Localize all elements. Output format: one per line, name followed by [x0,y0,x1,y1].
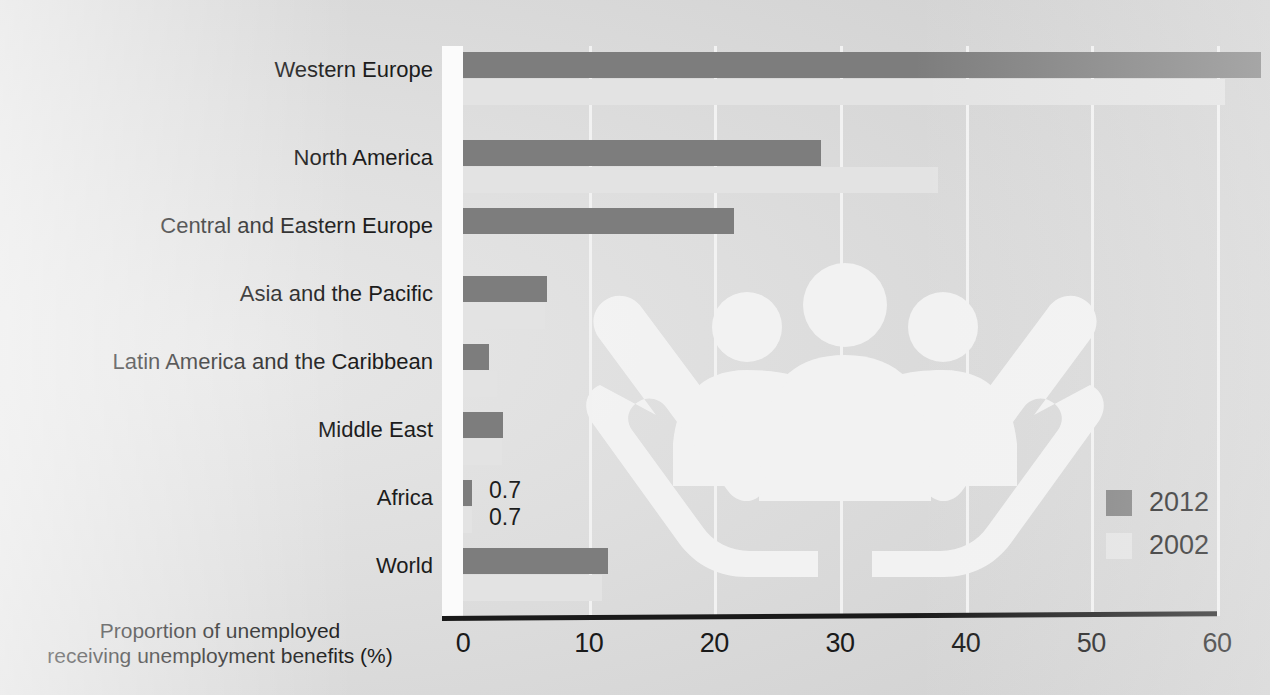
x-tick-60: 60 [1202,628,1231,659]
x-tick-50: 50 [1077,628,1106,659]
bar-group [463,412,1217,466]
x-axis-title: Proportion of unemployed receiving unemp… [0,618,440,668]
bar-2002 [463,79,1225,105]
bar-2012 [463,344,489,370]
axis-title-line2: receiving unemployment benefits (%) [0,643,440,668]
x-tick-10: 10 [574,628,603,659]
x-tick-40: 40 [951,628,980,659]
bar-2002 [463,167,938,193]
value-label-africa-2012: 0.7 [489,477,521,504]
bar-group [463,52,1217,106]
legend: 20122002 [1106,487,1209,573]
bar-2002 [463,371,497,397]
legend-swatch-icon [1106,490,1132,516]
legend-label: 2012 [1149,487,1209,518]
category-label-world: World [376,554,433,578]
bar-group [463,276,1217,330]
bar-group [463,548,1217,602]
bar-2012 [463,140,821,166]
category-label-africa: Africa [377,486,433,510]
bar-2012 [463,480,472,506]
bar-2002 [463,575,602,601]
bar-2002 [463,303,545,329]
plot-area [463,46,1217,616]
value-label-africa-2002: 0.7 [489,504,521,531]
legend-label: 2002 [1149,530,1209,561]
category-label-asia-and-the-pacific: Asia and the Pacific [240,282,433,306]
bar-group [463,344,1217,398]
legend-item-2012[interactable]: 2012 [1106,487,1209,518]
category-label-north-america: North America [294,146,433,170]
category-label-central-and-eastern-europe: Central and Eastern Europe [160,214,433,238]
bar-group [463,480,1217,534]
bar-2012 [463,208,734,234]
category-label-middle-east: Middle East [318,418,433,442]
plot-left-margin [442,46,463,621]
bar-2012 [463,548,608,574]
bar-2012 [463,276,547,302]
x-tick-20: 20 [700,628,729,659]
bar-2002 [463,439,502,465]
bar-2012 [463,412,503,438]
bar-group [463,140,1217,194]
bar-group [463,208,1217,262]
legend-swatch-icon [1106,533,1132,559]
chart-page: Western EuropeNorth AmericaCentral and E… [0,0,1270,695]
category-label-western-europe: Western Europe [274,58,433,82]
bar-2012 [463,52,1261,78]
x-tick-30: 30 [825,628,854,659]
gridline-60 [1217,46,1220,616]
bar-2002 [463,507,472,533]
x-tick-0: 0 [456,628,471,659]
legend-item-2002[interactable]: 2002 [1106,530,1209,561]
axis-title-line1: Proportion of unemployed [0,618,440,643]
category-label-latin-america-and-the-caribbean: Latin America and the Caribbean [113,350,433,374]
